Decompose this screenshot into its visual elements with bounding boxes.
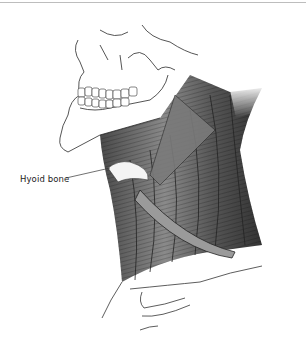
neck-anatomy-illustration xyxy=(0,0,306,343)
label-leader-line xyxy=(66,168,110,178)
teeth xyxy=(78,87,137,108)
hyoid-bone-label: Hyoid bone xyxy=(20,174,69,184)
